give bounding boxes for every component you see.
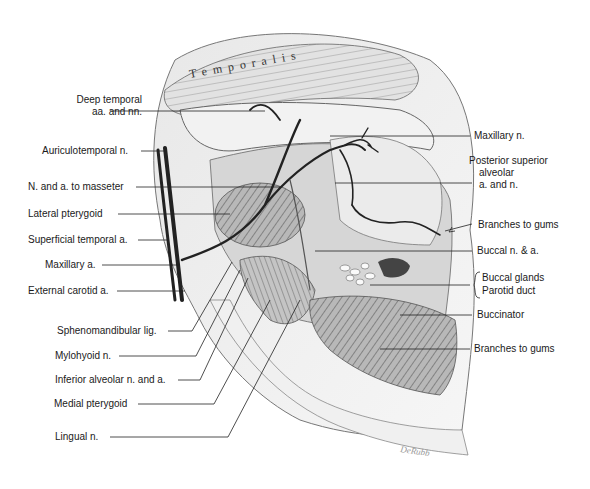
label-superficial-temporal: Superficial temporal a. [28,234,128,246]
label-lingual: Lingual n. [55,431,98,443]
label-buccal-nerve-artery: Buccal n. & a. [477,245,539,257]
label-maxillary-nerve: Maxillary n. [474,130,525,142]
label-mylohyoid: Mylohyoid n. [55,350,111,362]
label-masseter-nerve-artery: N. and a. to masseter [28,181,124,193]
label-lateral-pterygoid: Lateral pterygoid [28,208,103,220]
label-maxillary-artery: Maxillary a. [45,259,96,271]
label-inferior-alveolar: Inferior alveolar n. and a. [55,374,166,386]
label-buccinator: Buccinator [477,309,524,321]
lateral-pterygoid-muscle [215,183,305,247]
label-auriculotemporal: Auriculotemporal n. [42,145,128,157]
label-buccal-glands: Buccal glands [482,272,544,284]
label-parotid-duct: Parotid duct [482,285,535,297]
label-posterior-superior-alveolar: Posterior superior alveolar a. and n. [469,155,548,191]
label-medial-pterygoid: Medial pterygoid [54,398,127,410]
label-external-carotid: External carotid a. [28,285,109,297]
label-sphenomandibular: Sphenomandibular lig. [57,325,157,337]
label-branches-to-gums-upper: Branches to gums [478,219,559,231]
label-branches-to-gums-lower: Branches to gums [474,343,555,355]
label-deep-temporal: Deep temporal aa. and nn. [30,94,142,118]
